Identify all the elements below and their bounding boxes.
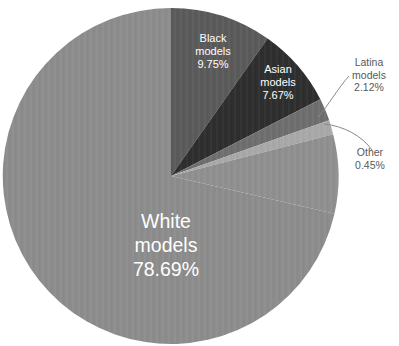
pie-chart-canvas — [0, 0, 399, 346]
pie-chart: Black models 9.75% Asian models 7.67% Wh… — [0, 0, 399, 346]
pie-texture-overlay — [3, 8, 339, 344]
leader-line-latina — [318, 76, 349, 117]
